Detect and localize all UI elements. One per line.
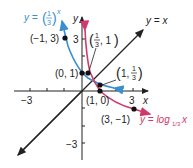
svg-text:): ) — [114, 32, 119, 48]
svg-text:x: x — [56, 8, 61, 15]
exponential-label: y = ( 1 3 ) x — [23, 8, 61, 26]
svg-text:1: 1 — [95, 32, 99, 39]
svg-text:, 1: , 1 — [100, 35, 112, 46]
svg-text:x: x — [181, 114, 188, 125]
y-tick-label-neg3: −3 — [66, 139, 78, 150]
svg-text:3: 3 — [95, 41, 99, 48]
svg-text:1/3: 1/3 — [172, 121, 181, 127]
svg-text:1: 1 — [47, 10, 51, 17]
logarithm-label: y = log 1/3 x — [139, 114, 188, 127]
leader-one-third — [102, 80, 116, 85]
y-axis-label: y — [72, 13, 79, 24]
x-tick-label-neg3: −3 — [21, 95, 33, 106]
label-1-third: ( 1, 1 3 ) — [116, 65, 143, 81]
label-1-0: (1, 0) — [86, 95, 109, 106]
svg-text:(: ( — [89, 32, 94, 48]
label-3-neg1: (3, −1) — [101, 114, 130, 125]
svg-text:y =: y = — [23, 12, 38, 23]
y-tick-label-3: 3 — [73, 34, 79, 45]
point-0-1 — [79, 70, 84, 75]
point-third-1 — [85, 70, 90, 75]
label-neg1-3: (−1, 3) — [30, 33, 59, 44]
svg-text:): ) — [138, 65, 143, 81]
svg-text:3: 3 — [47, 19, 51, 26]
x-tick-label-3: 3 — [129, 95, 135, 106]
leader-third-one — [89, 48, 96, 71]
graph-figure: x y −3 3 3 −3 y = x y = ( 1 3 ) x y = lo… — [0, 0, 193, 168]
svg-text:1,: 1, — [121, 68, 129, 79]
x-axis-label: x — [142, 95, 149, 106]
point-3-neg1 — [131, 106, 136, 111]
label-third-1: ( 1 3 , 1 ) — [89, 32, 119, 48]
svg-text:y = log: y = log — [139, 114, 170, 125]
identity-label: y = x — [145, 15, 168, 26]
point-neg1-3 — [62, 35, 67, 40]
svg-text:3: 3 — [132, 74, 136, 81]
svg-text:1: 1 — [132, 65, 136, 72]
point-1-0 — [97, 88, 102, 93]
svg-text:): ) — [52, 10, 57, 26]
point-1-third — [97, 82, 102, 87]
label-0-1: (0, 1) — [55, 68, 78, 79]
